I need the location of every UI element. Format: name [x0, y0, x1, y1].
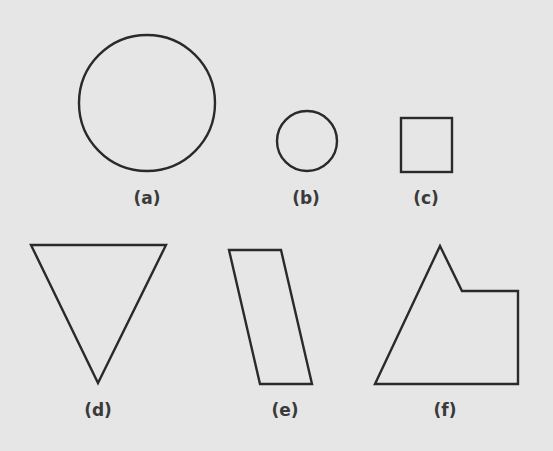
shape-b-small-circle	[277, 111, 337, 171]
shape-c-square	[401, 118, 452, 172]
label-c: (c)	[413, 190, 439, 207]
shape-e-parallelogram	[229, 250, 312, 384]
shape-f-irregular-pentagon	[375, 246, 518, 384]
label-e: (e)	[271, 402, 298, 419]
shape-d-inverted-triangle	[31, 245, 166, 383]
shape-a-large-circle	[79, 35, 215, 171]
label-b: (b)	[292, 190, 320, 207]
label-a: (a)	[133, 190, 160, 207]
label-f: (f)	[434, 402, 457, 419]
shapes-figure	[0, 0, 553, 451]
label-d: (d)	[84, 402, 112, 419]
